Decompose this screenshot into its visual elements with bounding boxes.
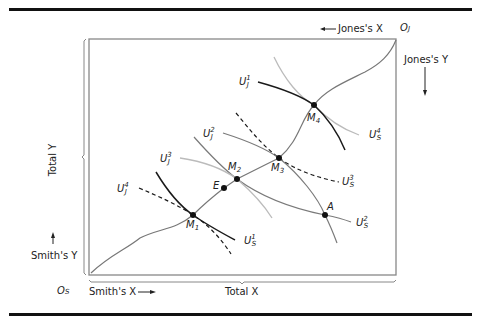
u-j2-curve — [223, 133, 337, 243]
label-m3: M3 — [271, 162, 284, 173]
point-e — [221, 185, 227, 191]
smith-x-arrow-icon — [138, 290, 156, 294]
point-m3 — [276, 155, 282, 161]
label-a: A — [327, 201, 334, 212]
label-m2: M2 — [228, 161, 241, 172]
total-x-label: Total X — [225, 286, 258, 297]
label-m1: M1 — [186, 219, 199, 230]
label-u-s1: U1S — [244, 236, 256, 246]
point-m4 — [311, 102, 317, 108]
edgeworth-box — [89, 39, 396, 275]
point-m1 — [190, 212, 196, 218]
label-u-j2: U2J — [203, 129, 213, 139]
label-u-s2: U2S — [356, 218, 368, 228]
jones-y-label: Jones's Y — [404, 54, 448, 65]
origin-smith: OS — [57, 285, 69, 296]
point-m2 — [234, 176, 240, 182]
label-u-s4: U4S — [369, 130, 381, 140]
total-y-bracket — [82, 39, 86, 275]
point-a — [322, 212, 328, 218]
smith-x-label: Smith's X — [89, 286, 136, 297]
label-e: E — [213, 180, 219, 191]
label-u-s3: U3S — [342, 177, 354, 187]
smith-y-label: Smith's Y — [31, 250, 77, 261]
jones-x-arrow-icon — [320, 27, 336, 31]
label-m4: M4 — [307, 112, 320, 123]
label-u-j1: U1J — [239, 77, 249, 87]
total-x-bracket — [89, 280, 396, 284]
label-u-j4: U4J — [117, 184, 127, 194]
jones-x-label: Jones's X — [338, 23, 383, 34]
origin-jones: OJ — [400, 22, 410, 33]
edgeworth-box-diagram — [0, 0, 484, 324]
label-u-j3: U3J — [160, 154, 170, 164]
u-j1-curve — [258, 82, 345, 150]
jones-y-arrow-icon — [423, 67, 427, 96]
total-y-label: Total Y — [47, 144, 58, 177]
smith-y-arrow-icon — [51, 232, 55, 244]
